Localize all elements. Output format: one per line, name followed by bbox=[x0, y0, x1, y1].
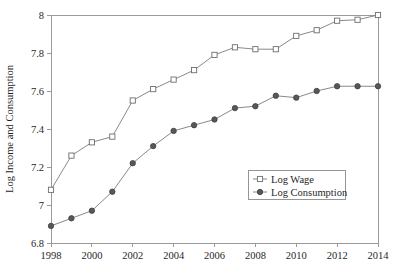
y-axis-title: Log Income and Consumption bbox=[4, 64, 15, 193]
y-tick-label: 7.6 bbox=[31, 86, 44, 97]
x-tick-label: 2000 bbox=[81, 250, 102, 261]
y-tick-label: 7.4 bbox=[31, 124, 45, 135]
x-tick-label: 2008 bbox=[245, 250, 266, 261]
x-tick-label: 2010 bbox=[286, 250, 307, 261]
data-point-marker bbox=[212, 117, 217, 122]
data-point-marker bbox=[110, 134, 115, 139]
data-point-marker bbox=[355, 17, 360, 22]
data-point-marker bbox=[375, 84, 380, 89]
y-tick-label: 7 bbox=[39, 200, 44, 211]
x-tick-label: 1998 bbox=[41, 250, 62, 261]
x-tick-label: 2002 bbox=[122, 250, 143, 261]
line-chart: 6.877.27.47.67.88 1998200020022004200620… bbox=[0, 0, 402, 278]
chart-legend: Log WageLog Consumption bbox=[248, 170, 348, 199]
y-axis-ticks: 6.877.27.47.67.88 bbox=[31, 10, 51, 249]
data-point-marker bbox=[294, 95, 299, 100]
x-tick-label: 2014 bbox=[368, 250, 390, 261]
data-point-marker bbox=[273, 47, 278, 52]
legend-marker-open-square bbox=[257, 176, 262, 181]
data-point-marker bbox=[89, 208, 94, 213]
data-point-marker bbox=[334, 84, 339, 89]
legend-marker-filled-circle bbox=[257, 189, 262, 194]
x-tick-label: 2006 bbox=[204, 250, 225, 261]
series-line-log-wage bbox=[51, 15, 378, 190]
x-tick-label: 2012 bbox=[327, 250, 348, 261]
plot-frame bbox=[51, 15, 378, 243]
data-point-marker bbox=[232, 45, 237, 50]
data-point-marker bbox=[232, 105, 237, 110]
data-point-marker bbox=[273, 93, 278, 98]
data-point-marker bbox=[171, 128, 176, 133]
data-point-marker bbox=[253, 104, 258, 109]
data-point-marker bbox=[69, 153, 74, 158]
x-tick-label: 2004 bbox=[163, 250, 185, 261]
data-point-marker bbox=[48, 187, 53, 192]
data-point-marker bbox=[355, 84, 360, 89]
data-point-marker bbox=[191, 68, 196, 73]
data-point-marker bbox=[151, 87, 156, 92]
data-point-marker bbox=[314, 88, 319, 93]
y-tick-label: 8 bbox=[39, 10, 44, 21]
data-point-marker bbox=[48, 223, 53, 228]
legend-label: Log Wage bbox=[271, 174, 314, 185]
y-tick-label: 7.8 bbox=[31, 48, 44, 59]
y-tick-label: 6.8 bbox=[31, 238, 44, 249]
data-point-marker bbox=[212, 52, 217, 57]
data-point-marker bbox=[294, 33, 299, 38]
chart-figure: 6.877.27.47.67.88 1998200020022004200620… bbox=[0, 0, 402, 278]
data-point-marker bbox=[150, 143, 155, 148]
legend-label: Log Consumption bbox=[271, 187, 348, 198]
series-line-log-consumption bbox=[51, 86, 378, 226]
data-point-marker bbox=[110, 189, 115, 194]
data-point-marker bbox=[335, 18, 340, 23]
data-point-marker bbox=[314, 28, 319, 33]
data-point-marker bbox=[130, 98, 135, 103]
data-point-marker bbox=[191, 123, 196, 128]
data-point-marker bbox=[89, 140, 94, 145]
y-tick-label: 7.2 bbox=[31, 162, 44, 173]
data-point-marker bbox=[69, 216, 74, 221]
data-point-marker bbox=[375, 12, 380, 17]
data-point-marker bbox=[253, 47, 258, 52]
x-axis-ticks: 199820002002200420062008201020122014 bbox=[41, 243, 390, 261]
data-point-marker bbox=[171, 77, 176, 82]
data-point-marker bbox=[130, 161, 135, 166]
